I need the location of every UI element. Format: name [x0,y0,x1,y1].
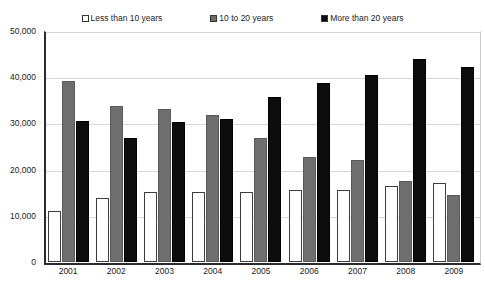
legend-swatch-icon-series-2 [321,15,328,22]
x-axis-tick-label: 2006 [300,266,319,276]
bar-2008-series-1 [399,181,412,262]
x-axis-tick-label: 2002 [107,266,126,276]
legend-label-series-1: 10 to 20 years [219,13,273,23]
bar-2002-series-2 [124,138,137,262]
x-axis-tick-label: 2003 [155,266,174,276]
bar-2006-series-1 [303,157,316,262]
bar-2005-series-0 [240,192,253,262]
bar-2003-series-0 [144,192,157,262]
bar-2004-series-1 [206,115,219,262]
bar-2001-series-1 [62,81,75,262]
bar-group-2004 [189,31,237,262]
bar-2004-series-0 [192,192,205,262]
chart-legend: Less than 10 years 10 to 20 years More t… [0,10,485,26]
y-axis: 010,00020,00030,00040,00050,000 [0,0,40,289]
bar-2002-series-1 [110,106,123,262]
x-axis-tick-label: 2008 [396,266,415,276]
y-axis-tick-label: 20,000 [10,165,36,174]
bars-layer [44,31,478,262]
y-axis-tick-label: 10,000 [10,211,36,220]
bar-group-2005 [237,31,285,262]
bar-2008-series-0 [385,186,398,262]
y-axis-tick-label: 0 [31,258,36,267]
legend-item-10-to-20-years: 10 to 20 years [210,13,273,23]
bar-2009-series-2 [461,67,474,262]
bar-2008-series-2 [413,59,426,262]
bar-2009-series-0 [433,183,446,262]
legend-label-series-0: Less than 10 years [91,13,163,23]
x-axis-tick-label: 2005 [252,266,271,276]
bar-2009-series-1 [447,195,460,262]
x-axis: 200120022003200420052006200720082009 [44,266,478,282]
bar-2005-series-2 [268,97,281,262]
bar-2002-series-0 [96,198,109,262]
bar-2001-series-0 [48,211,61,262]
y-axis-tick-label: 50,000 [10,27,36,36]
bar-group-2007 [333,31,381,262]
x-axis-tick-label: 2007 [348,266,367,276]
x-axis-tick-label: 2004 [203,266,222,276]
y-axis-tick-label: 40,000 [10,73,36,82]
legend-swatch-icon-series-1 [210,15,217,22]
legend-label-series-2: More than 20 years [330,13,403,23]
bar-2004-series-2 [220,119,233,262]
bar-2003-series-1 [158,109,171,262]
bar-group-2002 [92,31,140,262]
legend-swatch-icon-series-0 [82,15,89,22]
bar-2007-series-2 [365,75,378,262]
bar-2003-series-2 [172,122,185,262]
bar-2007-series-0 [337,190,350,262]
x-axis-tick-label: 2001 [59,266,78,276]
bar-2001-series-2 [76,121,89,262]
bar-group-2003 [140,31,188,262]
x-axis-tick-label: 2009 [444,266,463,276]
bar-2006-series-0 [289,190,302,262]
bar-2007-series-1 [351,160,364,262]
bar-2005-series-1 [254,138,267,262]
bar-group-2001 [44,31,92,262]
bar-group-2009 [430,31,478,262]
bar-group-2008 [382,31,430,262]
bar-2006-series-2 [317,83,330,262]
legend-item-more-than-20-years: More than 20 years [321,13,403,23]
bar-chart: Less than 10 years 10 to 20 years More t… [0,0,485,289]
bar-group-2006 [285,31,333,262]
legend-item-less-than-10-years: Less than 10 years [82,13,163,23]
y-axis-tick-label: 30,000 [10,119,36,128]
